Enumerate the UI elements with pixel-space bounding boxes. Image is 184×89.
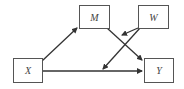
edge-w-to-xy-path <box>103 28 140 69</box>
node-x-label: X <box>24 65 32 76</box>
node-w: W <box>139 6 169 29</box>
node-x: X <box>14 59 43 83</box>
moderated-mediation-diagram: M W X Y <box>0 0 184 89</box>
edge-w-to-my-path <box>122 28 138 35</box>
node-m: M <box>80 6 110 29</box>
edge-x-to-m <box>42 28 77 61</box>
edge-m-to-y <box>107 28 142 60</box>
node-y: Y <box>145 59 174 83</box>
node-m-label: M <box>89 12 99 23</box>
